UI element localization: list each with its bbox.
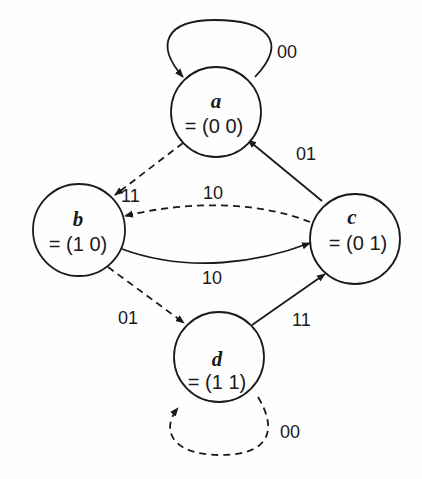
node-c: c = (0 1) — [310, 194, 400, 284]
state-diagram: 00 11 01 10 10 01 11 00 a = (0 0) b = (1… — [0, 0, 422, 479]
node-b-value: = (1 0) — [49, 233, 107, 255]
edge-label-d-d: 00 — [280, 422, 300, 442]
edge-label-a-a: 00 — [277, 42, 297, 62]
node-d: d = (1 1) — [174, 312, 264, 402]
node-b: b = (1 0) — [33, 184, 125, 276]
edge-label-d-c: 11 — [292, 310, 311, 330]
edge-label-c-a: 01 — [296, 144, 316, 164]
node-a-name: a — [211, 89, 222, 113]
node-b-name: b — [73, 207, 84, 231]
node-a-value: = (0 0) — [185, 115, 243, 137]
node-d-name: d — [212, 347, 223, 371]
edge-d-c — [252, 274, 325, 325]
edge-c-b — [125, 205, 310, 222]
edge-label-a-b: 11 — [121, 186, 140, 206]
edge-d-d — [170, 397, 268, 455]
edge-label-c-b: 10 — [203, 183, 223, 203]
node-d-value: = (1 1) — [188, 371, 246, 393]
edge-label-b-d: 01 — [118, 308, 138, 328]
edge-label-b-c: 10 — [202, 268, 222, 288]
node-c-value: = (0 1) — [329, 232, 387, 254]
node-a: a = (0 0) — [171, 67, 261, 157]
edge-b-c — [122, 243, 310, 263]
node-c-name: c — [347, 205, 357, 229]
